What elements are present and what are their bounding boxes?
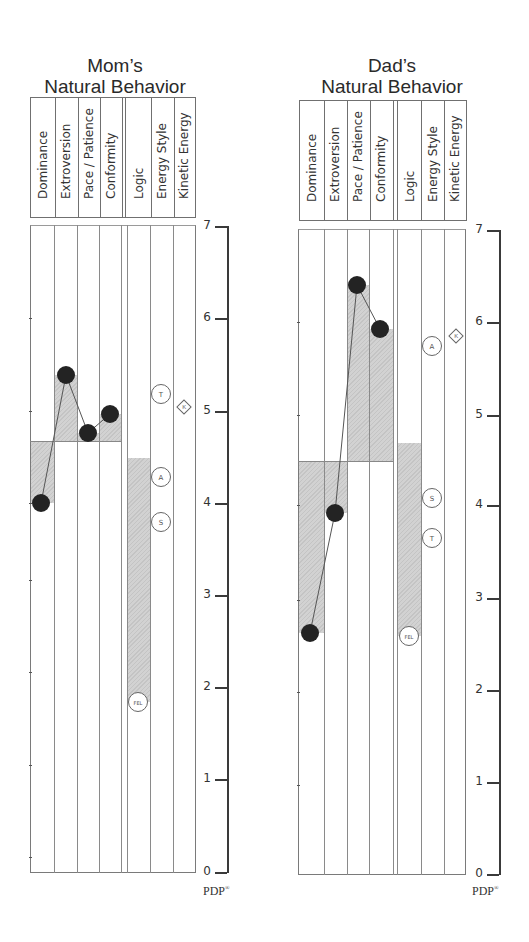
dad-tick-3: 3	[471, 590, 483, 604]
dad-tick-2: 2	[471, 682, 483, 696]
dad-trait-line	[0, 0, 529, 942]
dad-dot-extroversion	[326, 504, 344, 522]
dad-pdp-mark: PDP®	[472, 884, 499, 899]
dad-y-axis	[499, 230, 501, 875]
dad-marker-s: S	[422, 488, 442, 508]
dad-tick-1: 1	[471, 774, 483, 788]
dad-tick-0: 0	[471, 866, 483, 880]
dad-tick-5: 5	[471, 407, 483, 421]
dad-tick-4: 4	[471, 497, 483, 511]
dad-marker-t: T	[422, 528, 442, 548]
dad-dot-conformity	[371, 320, 389, 338]
dad-tick-6: 6	[471, 314, 483, 328]
dad-marker-fel: FEL	[399, 626, 419, 646]
dad-dot-dominance	[301, 624, 319, 642]
dad-tick-7: 7	[471, 222, 483, 236]
dad-marker-a: A	[422, 336, 442, 356]
dad-dot-pace	[348, 276, 366, 294]
